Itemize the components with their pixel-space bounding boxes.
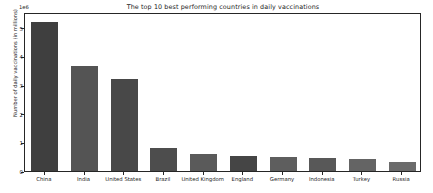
x-tick-mark [203, 172, 204, 175]
x-tick-mark [322, 172, 323, 175]
x-tick-mark [282, 172, 283, 175]
x-tick-label: India [77, 176, 90, 182]
x-tick-mark [163, 172, 164, 175]
bar [111, 79, 138, 171]
bar [349, 159, 376, 171]
x-tick-mark [44, 172, 45, 175]
y-axis-offset-text: 1e6 [19, 4, 29, 10]
x-tick-label: China [36, 176, 51, 182]
bar [31, 22, 58, 171]
bar [389, 162, 416, 171]
x-tick-mark [123, 172, 124, 175]
x-tick-label: Germany [270, 176, 294, 182]
x-tick-label: United Kingdom [181, 176, 224, 182]
x-tick-label: Brazil [156, 176, 171, 182]
y-tick-label: 2 [3, 112, 23, 118]
x-tick-label: Turkey [353, 176, 370, 182]
bar [230, 156, 257, 171]
chart-figure: The top 10 best performing countries in … [0, 0, 433, 193]
x-tick-label: United States [105, 176, 141, 182]
y-tick-label: 1 [3, 140, 23, 146]
bar [150, 148, 177, 171]
y-tick-label: 4 [3, 54, 23, 60]
y-tick-label: 3 [3, 83, 23, 89]
x-tick-mark [84, 172, 85, 175]
x-tick-mark [242, 172, 243, 175]
x-tick-mark [401, 172, 402, 175]
y-tick-label: 0 [3, 169, 23, 175]
chart-title: The top 10 best performing countries in … [24, 3, 422, 11]
bar [190, 154, 217, 171]
bar-series [25, 14, 420, 171]
x-tick-mark [361, 172, 362, 175]
y-tick-label: 5 [3, 26, 23, 32]
plot-area [24, 13, 421, 172]
bar [71, 66, 98, 171]
bar [270, 157, 297, 171]
x-tick-label: Indonesia [309, 176, 335, 182]
bar [309, 158, 336, 171]
x-tick-label: Russia [393, 176, 410, 182]
x-tick-label: England [232, 176, 254, 182]
